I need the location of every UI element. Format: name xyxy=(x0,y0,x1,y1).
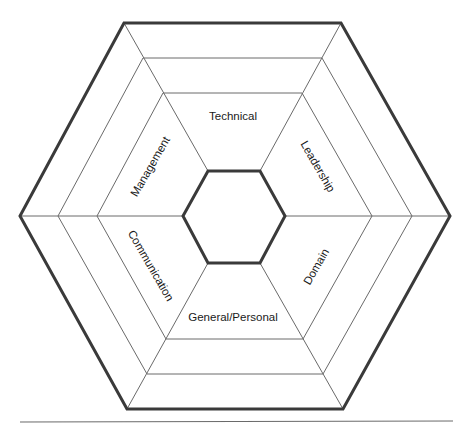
segment-label-domain: Domain xyxy=(301,246,331,286)
segment-label-technical: Technical xyxy=(209,110,257,122)
bottom-divider xyxy=(20,421,453,422)
spoke-top-right xyxy=(260,23,341,171)
spoke-bottom-right xyxy=(260,263,343,409)
hexagon-inner xyxy=(183,171,285,263)
segment-label-management: Management xyxy=(128,134,172,199)
competency-hexagon-diagram: Technical Leadership Domain General/Pers… xyxy=(0,0,466,430)
segment-label-leadership: Leadership xyxy=(298,139,337,194)
segment-label-communication: Communication xyxy=(126,228,176,303)
segment-label-general-personal: General/Personal xyxy=(188,311,278,323)
